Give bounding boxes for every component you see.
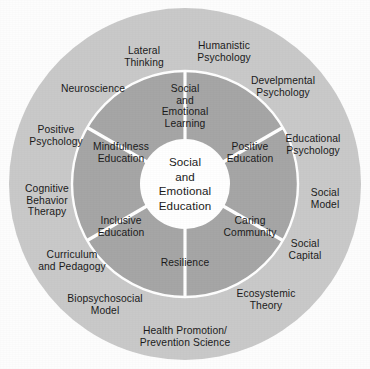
inner-segment-positive-education[interactable]: Positive Education (227, 141, 274, 164)
outer-label-curriculum-and-pedagogy[interactable]: Curriculum and Pedagogy (38, 249, 106, 272)
outer-label-positive-psychology[interactable]: Positive Psychology (29, 124, 83, 147)
center-label: Social and Emotional Education (159, 155, 211, 213)
inner-segment-social-and-emotional-learning[interactable]: Social and Emotional Learning (162, 83, 209, 129)
outer-label-neuroscience[interactable]: Neuroscience (61, 83, 125, 95)
outer-label-health-promotion-prevention-science[interactable]: Health Promotion/ Prevention Science (140, 325, 231, 348)
sel-wheel-diagram: Social and Emotional Education Social an… (0, 0, 370, 369)
outer-label-biopsychosocial-model[interactable]: Biopsychosocial Model (67, 293, 142, 316)
inner-segment-mindfulness-education[interactable]: Mindfulness Education (93, 141, 149, 164)
outer-label-social-capital[interactable]: Social Capital (289, 238, 322, 261)
outer-label-humanistic-psychology[interactable]: Humanistic Psychology (197, 40, 251, 63)
inner-segment-inclusive-education[interactable]: Inclusive Education (98, 215, 145, 238)
outer-label-lateral-thinking[interactable]: Lateral Thinking (124, 45, 164, 68)
outer-label-educational-psychology[interactable]: Educational Psychology (286, 133, 341, 156)
inner-segment-caring-community[interactable]: Caring Community (224, 215, 277, 238)
outer-label-social-model[interactable]: Social Model (311, 187, 340, 210)
outer-label-developmental-psychology[interactable]: Develpmental Psychology (251, 75, 315, 98)
outer-label-ecosystemic-theory[interactable]: Ecosystemic Theory (237, 288, 296, 311)
inner-segment-resilience[interactable]: Resilience (161, 257, 210, 269)
outer-label-cognitive-behavior-therapy[interactable]: Cognitive Behavior Therapy (25, 183, 69, 218)
